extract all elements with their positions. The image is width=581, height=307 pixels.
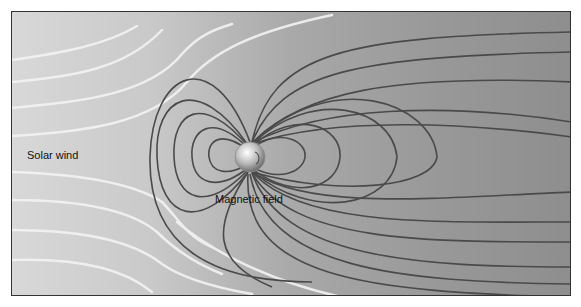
- field-line: [252, 172, 571, 199]
- diagram-canvas: [12, 12, 571, 296]
- field-line: [248, 174, 571, 296]
- earth: [235, 142, 265, 172]
- magnetic-field-lines: [150, 32, 571, 296]
- solar-wind-label: Solar wind: [27, 149, 78, 161]
- solar-wind-line: [12, 230, 252, 294]
- field-line: [252, 52, 571, 142]
- field-line: [252, 125, 571, 144]
- magnetosphere-diagram: Solar wind Magnetic field: [11, 11, 571, 296]
- magnetic-field-label: Magnetic field: [215, 193, 283, 205]
- field-line: [252, 80, 571, 143]
- field-line: [252, 173, 571, 242]
- field-line: [252, 99, 437, 186]
- solar-wind-line: [12, 26, 137, 60]
- solar-wind-line: [12, 260, 152, 292]
- solar-wind-line: [12, 24, 232, 108]
